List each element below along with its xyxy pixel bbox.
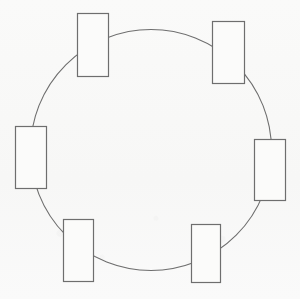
node-top-left[interactable] bbox=[78, 14, 109, 77]
node-top-right[interactable] bbox=[213, 22, 245, 84]
node-group bbox=[16, 14, 286, 283]
ring-diagram-svg bbox=[0, 0, 300, 299]
node-bottom-right[interactable] bbox=[192, 225, 221, 283]
node-bottom-left[interactable] bbox=[64, 220, 94, 282]
diagram-canvas bbox=[0, 0, 300, 299]
node-left[interactable] bbox=[16, 127, 47, 189]
node-right[interactable] bbox=[255, 140, 286, 201]
